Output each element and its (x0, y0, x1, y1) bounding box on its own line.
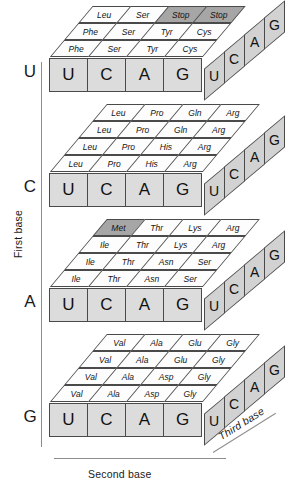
amino-acid-label: Tyr (161, 27, 173, 37)
second-base-axis-label: Second base (88, 468, 152, 480)
amino-acid-label: Stop (172, 10, 190, 20)
third-base-letter-a[interactable]: A (244, 17, 265, 67)
third-base-letter-u[interactable]: U (204, 166, 225, 216)
amino-acid-label: Arg (198, 142, 211, 152)
second-base-letter-g[interactable]: G (163, 58, 202, 92)
amino-acid-label: Lys (174, 240, 187, 250)
amino-acid-label: Arg (212, 240, 225, 250)
amino-acid-label: Glu (174, 355, 187, 365)
second-base-row: UCAG (50, 403, 202, 437)
first-base-letter-u: U (22, 62, 38, 82)
second-base-letter-c[interactable]: C (87, 58, 126, 92)
third-base-letter-u[interactable]: U (204, 51, 225, 101)
third-base-letter-c[interactable]: C (224, 34, 245, 84)
amino-acid-label: His (146, 159, 158, 169)
codon-row: ValAlaAspGly (64, 369, 230, 386)
amino-acid-label: Gly (184, 389, 197, 399)
first-base-letter-c: C (22, 177, 38, 197)
amino-acid-label: Ile (86, 257, 95, 267)
second-base-letter-c[interactable]: C (87, 288, 126, 322)
third-base-letter-text: U (209, 298, 219, 314)
second-base-letter-g[interactable]: G (163, 288, 202, 322)
third-base-letter-c[interactable]: C (224, 264, 245, 314)
codon-row: IleThrLysArg (79, 237, 245, 254)
third-base-letter-text: U (209, 413, 219, 429)
codon-row: IleThrAsnSer (64, 254, 230, 271)
third-base-letter-text: A (250, 264, 259, 280)
amino-acid-label: Phe (69, 44, 84, 54)
genetic-code-diagram: First base Second base Third base LeuSer… (0, 0, 290, 497)
codon-row: LeuProGlnArg (79, 122, 245, 139)
codon-row: MetThrLysArg (93, 220, 259, 237)
amino-acid-label: Met (112, 223, 126, 233)
third-base-letter-g[interactable]: G (264, 115, 285, 165)
second-base-letter-a[interactable]: A (125, 403, 164, 437)
codon-row: LeuProHisArg (50, 156, 216, 173)
first-base-letter-a: A (22, 292, 38, 312)
third-base-letter-text: G (269, 17, 280, 33)
amino-acid-label: Gln (174, 125, 187, 135)
second-base-letter-u[interactable]: U (49, 58, 88, 92)
amino-acid-label: Phe (83, 27, 98, 37)
amino-acid-label: Val (85, 372, 97, 382)
amino-acid-label: Gly (227, 338, 240, 348)
codon-row: IleThrAsnSer (50, 271, 216, 288)
second-base-row: UCAG (50, 173, 202, 207)
third-base-letter-a[interactable]: A (244, 132, 265, 182)
amino-acid-label: Pro (151, 108, 164, 118)
third-base-letter-c[interactable]: C (224, 149, 245, 199)
third-base-letter-u[interactable]: U (204, 281, 225, 331)
third-base-letter-c[interactable]: C (224, 379, 245, 429)
codon-block-c: LeuProGlnArgLeuProGlnArgLeuProHisArgLeuP… (50, 103, 290, 223)
amino-acid-label: Thr (122, 257, 135, 267)
second-base-letter-g[interactable]: G (163, 403, 202, 437)
third-base-letter-u[interactable]: U (204, 396, 225, 446)
third-base-letter-text: G (269, 132, 280, 148)
amino-acid-label: Leu (112, 108, 126, 118)
amino-acid-label: Arg (184, 159, 197, 169)
third-base-letter-g[interactable]: G (264, 0, 285, 50)
second-base-letter-c[interactable]: C (87, 173, 126, 207)
amino-acid-label: Arg (227, 223, 240, 233)
amino-acid-label: Ser (122, 27, 135, 37)
amino-acid-label: Pro (122, 142, 135, 152)
third-base-letter-text: A (250, 149, 259, 165)
amino-acid-label: Ala (137, 355, 149, 365)
amino-acid-label: Tyr (147, 44, 159, 54)
amino-acid-label: Asp (159, 372, 174, 382)
third-base-letter-g[interactable]: G (264, 230, 285, 280)
amino-acid-label: Stop (210, 10, 228, 20)
third-base-letter-text: C (229, 51, 239, 67)
second-base-letter-u[interactable]: U (49, 403, 88, 437)
codon-grid: LeuSerStopStopPheSerTyrCysPheSerTyrCys (50, 7, 245, 58)
second-base-letter-a[interactable]: A (125, 288, 164, 322)
amino-acid-label: Asn (145, 274, 160, 284)
amino-acid-label: Ser (108, 44, 121, 54)
codon-block-g: ValAlaGluGlyValAlaGluGlyValAlaAspGlyValA… (50, 333, 290, 453)
codon-block-u: LeuSerStopStopPheSerTyrCysPheSerTyrCysUC… (50, 0, 290, 108)
amino-acid-label: Val (70, 389, 82, 399)
second-base-letter-u[interactable]: U (49, 288, 88, 322)
amino-acid-label: Ala (151, 338, 163, 348)
second-base-letter-g[interactable]: G (163, 173, 202, 207)
third-base-letter-a[interactable]: A (244, 247, 265, 297)
amino-acid-label: Lys (189, 223, 202, 233)
amino-acid-label: Cys (183, 44, 198, 54)
second-base-letter-a[interactable]: A (125, 58, 164, 92)
third-base-letter-g[interactable]: G (264, 345, 285, 395)
amino-acid-label: Ile (72, 274, 81, 284)
codon-row: ValAlaGluGly (79, 352, 245, 369)
amino-acid-label: Val (113, 338, 125, 348)
second-base-letter-u[interactable]: U (49, 173, 88, 207)
amino-acid-label: Thr (108, 274, 121, 284)
third-base-letter-a[interactable]: A (244, 362, 265, 412)
amino-acid-label: Glu (189, 338, 202, 348)
second-base-letter-c[interactable]: C (87, 403, 126, 437)
first-base-axis-rule (41, 62, 42, 447)
amino-acid-label: Thr (151, 223, 164, 233)
third-base-letter-text: C (229, 281, 239, 297)
second-base-letter-a[interactable]: A (125, 173, 164, 207)
third-base-letter-text: U (209, 68, 219, 84)
amino-acid-label: Ser (198, 257, 211, 267)
amino-acid-label: Asn (159, 257, 174, 267)
